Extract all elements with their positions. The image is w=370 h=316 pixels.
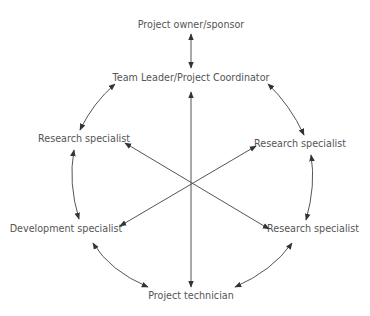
arrow-research-upper-left-research-lower-right-spoke	[125, 143, 269, 229]
arrow-research-upper-right-development-spoke	[120, 146, 256, 226]
team-network-diagram: Project owner/sponsor Team Leader/Projec…	[0, 0, 370, 316]
arrow-research-lower-right-technician	[235, 243, 292, 287]
arrow-research-upper-right-research-lower-right	[306, 155, 313, 220]
arrow-development-technician	[93, 243, 148, 287]
arrow-leader-research-upper-left	[80, 84, 115, 130]
node-research-specialist-upper-right: Research specialist	[254, 138, 346, 149]
node-project-technician: Project technician	[148, 290, 234, 301]
node-project-owner-sponsor: Project owner/sponsor	[138, 19, 245, 30]
arrow-research-upper-left-development	[72, 150, 79, 219]
node-research-specialist-lower-right: Research specialist	[267, 223, 359, 234]
node-research-specialist-upper-left: Research specialist	[38, 133, 130, 144]
node-development-specialist: Development specialist	[10, 223, 123, 234]
arrow-leader-research-upper-right	[268, 84, 304, 135]
node-team-leader-coordinator: Team Leader/Project Coordinator	[112, 72, 270, 83]
